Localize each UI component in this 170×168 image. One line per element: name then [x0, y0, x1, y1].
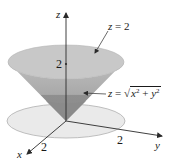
y-exponent: 2: [156, 87, 160, 95]
radicand: x2 + y2: [130, 86, 161, 99]
plane-eq-rhs: 2: [124, 20, 130, 32]
cone-figure: z y x 2 2 2 z = 2 z = √x2 + y2: [0, 0, 170, 168]
y-axis-label: y: [155, 140, 160, 151]
cone-eq-sign: =: [112, 87, 124, 99]
x-axis-label: x: [17, 149, 22, 160]
cone-diagram-graphic: [0, 0, 170, 168]
z-tick-label: 2: [56, 58, 62, 70]
radicand-plus: +: [139, 87, 151, 99]
x-tick-label: 2: [41, 141, 47, 153]
y-tick-label: 2: [117, 134, 123, 146]
z-tick-2: [65, 63, 67, 65]
plane-eq-sign: =: [112, 20, 124, 32]
cone-equation-label: z = √x2 + y2: [108, 88, 161, 99]
z-axis-label: z: [56, 9, 60, 20]
plane-equation-label: z = 2: [108, 21, 130, 32]
